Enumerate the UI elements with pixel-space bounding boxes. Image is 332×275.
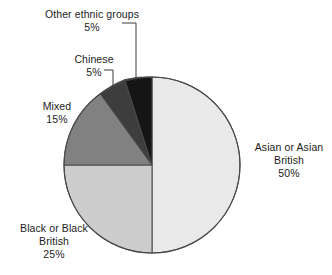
pie-label-black-or-black-british-name-line2: British bbox=[2, 235, 106, 248]
pie-label-mixed: Mixed 15% bbox=[14, 100, 100, 126]
pie-label-asian-or-asian-british: Asian or Asian British 50% bbox=[246, 141, 332, 180]
pie-label-asian-or-asian-british-value: 50% bbox=[246, 167, 332, 180]
pie-label-black-or-black-british: Black or Black British 25% bbox=[2, 222, 106, 261]
pie-label-asian-or-asian-british-name-line2: British bbox=[246, 154, 332, 167]
pie-label-mixed-value: 15% bbox=[14, 113, 100, 126]
pie-label-other-ethnic-groups-value: 5% bbox=[26, 21, 158, 34]
pie-label-other-ethnic-groups: Other ethnic groups 5% bbox=[26, 8, 158, 34]
pie-slice-asian-or-asian-british[interactable] bbox=[152, 77, 240, 253]
pie-label-other-ethnic-groups-name: Other ethnic groups bbox=[26, 8, 158, 21]
pie-chart: Other ethnic groups 5% Chinese 5% Mixed … bbox=[0, 0, 332, 275]
pie-label-chinese-name: Chinese bbox=[38, 53, 150, 66]
pie-label-black-or-black-british-name-line1: Black or Black bbox=[2, 222, 106, 235]
pie-label-asian-or-asian-british-name-line1: Asian or Asian bbox=[246, 141, 332, 154]
pie-label-black-or-black-british-value: 25% bbox=[2, 248, 106, 261]
pie-label-mixed-name: Mixed bbox=[14, 100, 100, 113]
pie-label-chinese-value: 5% bbox=[38, 66, 150, 79]
pie-label-chinese: Chinese 5% bbox=[38, 53, 150, 79]
